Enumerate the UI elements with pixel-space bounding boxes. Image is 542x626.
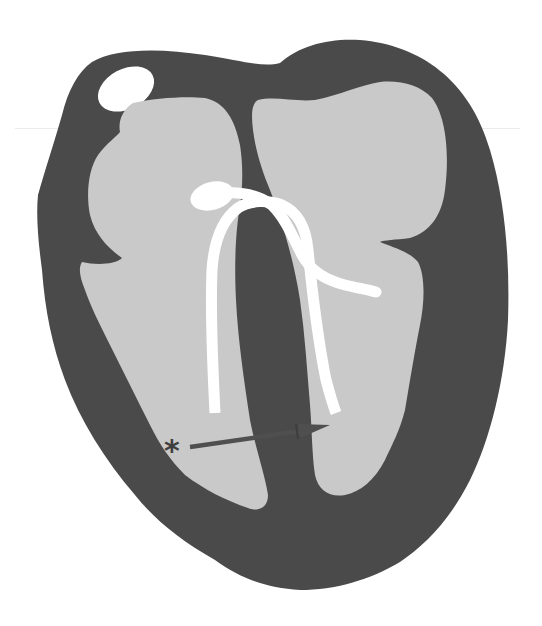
asterisk-marker: * <box>164 436 180 466</box>
heart-diagram <box>0 0 542 626</box>
